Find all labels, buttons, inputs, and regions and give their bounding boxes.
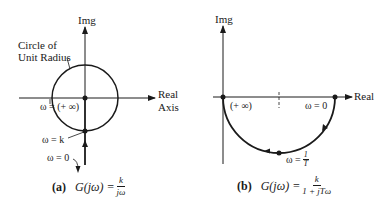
omega-zero-label-a: ω = 0 (47, 152, 69, 163)
locus-arrow-bottom-icon (264, 149, 270, 154)
omega-k-dot (83, 129, 88, 134)
circle-label-line2: Unit Radius (18, 52, 71, 63)
origin-dot-a (83, 96, 88, 101)
figure-b-plot (213, 26, 352, 164)
imag-axis-label-b: Img (215, 14, 233, 25)
omega-zero-dot-b (333, 95, 338, 100)
circle-label-line1: Circle of (18, 40, 57, 51)
omega-mid-denominator: T (304, 160, 308, 168)
caption-a-tag: (a) (52, 181, 66, 193)
real-axis-label-a-line2: Axis (158, 102, 179, 113)
caption-a: (a) G(jω) = k jω (52, 176, 125, 197)
caption-b-tag: (b) (237, 180, 252, 192)
omega-mid-fraction: 1 T (303, 151, 309, 168)
omega-k-leader (68, 132, 84, 138)
caption-a-denominator: jω (117, 187, 126, 197)
real-axis-label-b: Real (354, 91, 374, 102)
caption-b-fraction: k 1 + jTω (302, 175, 331, 196)
caption-a-lhs: G(jω) = (75, 181, 115, 193)
omega-zero-arrow-icon (76, 166, 81, 173)
caption-b: (b) G(jω) = k 1 + jTω (237, 175, 331, 196)
real-axis-label-a-line1: Real (158, 89, 178, 100)
caption-b-lhs: G(jω) = (261, 180, 301, 192)
omega-inf-label-a: ω = (+ ∞) (40, 101, 79, 112)
locus-arrow-icon (82, 140, 88, 147)
omega-mid-dot (277, 151, 282, 156)
omega-mid-prefix: ω = (286, 154, 301, 165)
omega-k-label: ω = k (42, 134, 64, 145)
caption-b-denominator: 1 + jTω (302, 186, 331, 196)
imag-axis-label-a: Img (78, 15, 96, 26)
omega-inf-label-b: (+ ∞) (230, 100, 252, 111)
omega-zero-label-b: ω = 0 (305, 100, 327, 111)
caption-a-numerator: k (117, 176, 125, 187)
origin-dot-b (221, 95, 226, 100)
omega-mid-label: ω = 1 T (286, 151, 309, 168)
caption-a-fraction: k jω (117, 176, 126, 197)
caption-b-numerator: k (313, 175, 321, 186)
